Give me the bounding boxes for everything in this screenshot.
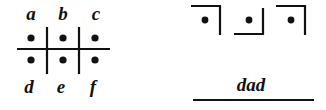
dot-c — [91, 34, 98, 41]
label-f: f — [90, 76, 98, 97]
dot-b — [59, 34, 66, 41]
symbol-a — [234, 8, 263, 34]
dot-e — [59, 56, 66, 63]
label-e: e — [57, 76, 66, 97]
label-d: d — [24, 76, 34, 97]
label-c: c — [92, 3, 101, 24]
dot-f — [91, 56, 98, 63]
symbol-d-2 — [276, 6, 305, 35]
label-a: a — [26, 3, 36, 24]
decoded-word: dad — [237, 74, 266, 95]
label-b: b — [58, 3, 68, 24]
pigpen-diagram: a b c d e f dad — [0, 0, 326, 110]
dot-d — [27, 56, 34, 63]
cipher-symbols — [191, 6, 305, 35]
dot-a — [27, 34, 34, 41]
key-grid — [17, 27, 110, 74]
symbol-d — [191, 6, 220, 35]
